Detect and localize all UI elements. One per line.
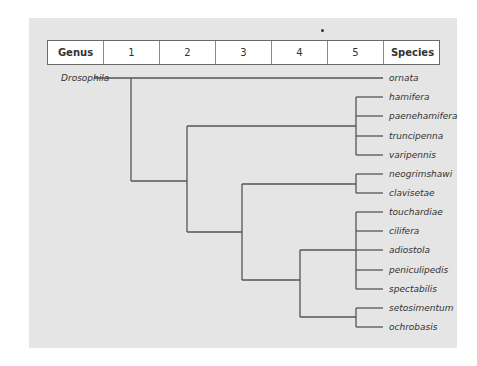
- species-label: truncipenna: [389, 131, 443, 141]
- root-label: Drosophila: [61, 73, 109, 83]
- species-label: setosimentum: [389, 303, 453, 313]
- species-label: cilifera: [389, 226, 419, 236]
- species-label: hamifera: [389, 92, 429, 102]
- species-label: neogrimshawi: [389, 169, 452, 179]
- species-label: touchardiae: [389, 207, 443, 217]
- species-label: peniculipedis: [389, 265, 448, 275]
- species-label: ochrobasis: [389, 322, 437, 332]
- species-label: clavisetae: [389, 188, 435, 198]
- species-label: ornata: [389, 73, 418, 83]
- species-label: varipennis: [389, 150, 436, 160]
- species-label: adiostola: [389, 245, 430, 255]
- species-label: paenehamifera: [389, 111, 457, 121]
- species-label: spectabilis: [389, 284, 437, 294]
